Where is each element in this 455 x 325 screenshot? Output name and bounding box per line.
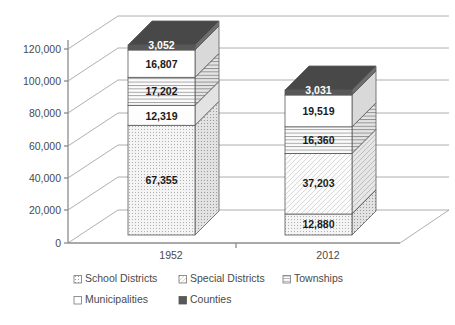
legend-item-special-districts[interactable]: Special Districts xyxy=(179,272,265,284)
floor-right-edge xyxy=(400,210,449,243)
legend-swatch-solid-dark-icon xyxy=(179,297,187,305)
value-label-school-districts: 12,880 xyxy=(302,218,334,230)
depth-line-120000 xyxy=(68,16,118,49)
legend-item-counties[interactable]: Counties xyxy=(179,293,231,305)
y-axis-labels: 120,000 100,000 80,000 60,000 40,000 20,… xyxy=(23,43,61,249)
legend-item-townships[interactable]: Townships xyxy=(283,272,343,284)
depth-line-0 xyxy=(68,210,118,243)
legend-label: Counties xyxy=(190,293,231,305)
stacked-column-chart: 120,000 100,000 80,000 60,000 40,000 20,… xyxy=(0,0,455,325)
xtick-label-2012: 2012 xyxy=(316,249,340,261)
value-label-municipalities: 19,519 xyxy=(302,105,334,117)
value-label-school-districts: 67,355 xyxy=(145,174,177,186)
value-label-municipalities: 16,807 xyxy=(145,58,177,70)
legend-swatch-solid-white-icon xyxy=(74,297,82,305)
ytick-label-20000: 20,000 xyxy=(29,204,61,216)
ytick-label-120000: 120,000 xyxy=(23,43,61,55)
depth-line-60000 xyxy=(68,113,118,146)
depth-line-100000 xyxy=(68,48,118,81)
bar-1952[interactable]: 3,052 16,807 17,202 12,319 67,355 xyxy=(128,21,219,235)
value-label-townships: 16,360 xyxy=(302,134,334,146)
legend-label: Townships xyxy=(294,272,343,284)
legend-label: Municipalities xyxy=(85,293,148,305)
ytick-label-0: 0 xyxy=(55,237,61,249)
ytick-label-100000: 100,000 xyxy=(23,75,61,87)
depth-line-80000 xyxy=(68,80,118,113)
legend-label: Special Districts xyxy=(190,272,265,284)
legend-swatch-horizontal-icon xyxy=(283,276,291,284)
value-label-special-districts: 37,203 xyxy=(302,177,334,189)
value-label-counties: 3,031 xyxy=(305,84,331,96)
depth-line-40000 xyxy=(68,145,118,178)
bar-2012[interactable]: 3,031 19,519 16,360 37,203 12,880 xyxy=(285,66,376,235)
legend-item-school-districts[interactable]: School Districts xyxy=(74,272,157,284)
ytick-label-40000: 40,000 xyxy=(29,172,61,184)
legend-label: School Districts xyxy=(85,272,157,284)
xtick-label-1952: 1952 xyxy=(159,249,183,261)
x-axis-labels: 1952 2012 xyxy=(159,249,340,261)
value-label-special-districts: 12,319 xyxy=(145,110,177,122)
legend: School Districts Special Districts Towns… xyxy=(74,272,343,305)
ytick-label-60000: 60,000 xyxy=(29,140,61,152)
legend-swatch-diagonal-icon xyxy=(179,276,187,284)
legend-swatch-dots-icon xyxy=(74,276,82,284)
ytick-label-80000: 80,000 xyxy=(29,107,61,119)
value-label-townships: 17,202 xyxy=(145,85,177,97)
legend-item-municipalities[interactable]: Municipalities xyxy=(74,293,148,305)
chart-frame xyxy=(64,16,449,248)
value-label-counties: 3,052 xyxy=(148,39,174,51)
depth-line-20000 xyxy=(68,177,118,210)
chart-container: 120,000 100,000 80,000 60,000 40,000 20,… xyxy=(0,0,455,325)
